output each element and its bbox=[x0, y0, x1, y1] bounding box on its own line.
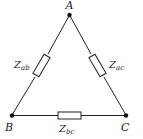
impedance-zbc bbox=[58, 112, 81, 119]
zab-subscript: ab bbox=[21, 64, 30, 72]
impedance-zab bbox=[33, 54, 50, 77]
zab-label: Zab bbox=[13, 59, 30, 72]
zbc-label: Zbc bbox=[58, 123, 74, 136]
node-c-label: C bbox=[121, 121, 130, 134]
wire-zac-to-c bbox=[104, 77, 126, 115]
node-b-label: B bbox=[4, 121, 13, 134]
wire-a-to-zab bbox=[48, 15, 70, 54]
resistor-zab-body bbox=[33, 54, 50, 77]
resistor-zac-body bbox=[89, 54, 106, 77]
zac-label: Zac bbox=[108, 59, 124, 72]
wire-a-to-zac bbox=[70, 15, 92, 54]
impedance-zac bbox=[89, 54, 106, 77]
zbc-subscript: bc bbox=[66, 128, 74, 136]
delta-circuit-diagram: A B C Zab Zac Zbc bbox=[0, 0, 143, 139]
node-b-dot bbox=[10, 113, 14, 117]
node-a-label: A bbox=[65, 0, 74, 12]
node-a-dot bbox=[67, 13, 71, 17]
wire-zab-to-b bbox=[12, 77, 35, 115]
node-c-dot bbox=[124, 113, 128, 117]
zac-subscript: ac bbox=[116, 64, 124, 72]
